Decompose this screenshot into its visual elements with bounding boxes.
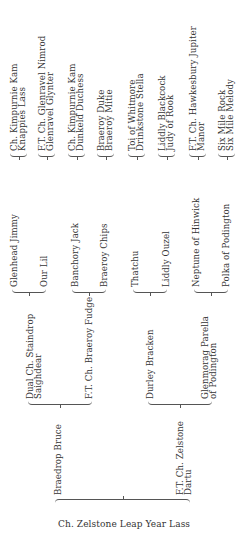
parents-brace <box>54 493 190 499</box>
sire-name: Braedrop Bruce <box>54 424 62 495</box>
great-grandparent: Polka of Podington <box>222 204 230 287</box>
ggp-brace <box>10 150 27 157</box>
great-grandparent: Neptune of Hinwick <box>192 198 200 287</box>
ggp-brace <box>97 150 114 157</box>
dam-name: F.T. Ch. Zelstone Dartu <box>176 421 192 495</box>
gp3-brace <box>133 286 167 293</box>
root-label: Ch. Zelstone Leap Year Lass <box>58 519 190 529</box>
ggp-brace <box>158 150 175 157</box>
gp4-brace <box>194 286 228 293</box>
great-great-grandparent-pair: Ch. Kimpurnie KamKnappies Lass <box>10 63 26 151</box>
great-grandparent: Glenhead Jimmy <box>10 214 18 287</box>
great-great-grandparent-pair: F.T. Ch. Glenravel NimrodGlenravel Glynt… <box>38 36 54 151</box>
gp1-brace <box>12 286 46 293</box>
great-great-grandparent-pair: Liddly BlackcockJudy of Rook <box>158 75 174 151</box>
great-great-grandparent-pair: Braeroy DukeBraeroy Mitie <box>97 89 113 151</box>
ggp-brace <box>38 150 55 157</box>
great-grandparent: Braeroy Chips <box>100 223 108 287</box>
ggp-brace <box>189 150 206 157</box>
root-dog-name: Ch. Zelstone Leap Year Lass <box>58 519 198 529</box>
great-great-grandparent-pair: F.T. Ch. Hawkesbury JupiterManor <box>189 26 205 151</box>
great-great-grandparent-pair: Six Mile RockSix Mile Melody <box>218 79 234 151</box>
great-grandparent: Our Lil <box>40 256 48 287</box>
grandparent-4: Glenmorag Parella of Podington <box>201 316 217 399</box>
great-great-grandparent-pair: Toi of WhitmoreDrinkstone Stella <box>128 73 144 151</box>
great-grandparent: Thatchu <box>131 251 139 287</box>
gp2-brace <box>72 286 106 293</box>
ggp-brace <box>218 150 235 157</box>
great-grandparent: Banchory Jack <box>71 223 79 287</box>
grandparent-1: Dual Ch. Staindrop Saighdear <box>26 314 42 399</box>
sire-brace <box>28 398 92 405</box>
great-grandparent: Liddly Ouzel <box>162 231 170 287</box>
great-great-grandparent-pair: Ch. Kimpurnie KamDunkeld Duchess <box>68 63 84 151</box>
root-brace <box>55 499 190 505</box>
ggp-brace <box>128 150 145 157</box>
ggp-brace <box>68 150 85 157</box>
grandparent-2: F.T. Ch. Braeroy Fudge <box>85 297 93 399</box>
pedigree-page: Ch. Zelstone Leap Year Lass Braedrop Bru… <box>0 0 249 543</box>
grandparent-3: Durley Bracken <box>146 329 154 399</box>
dam-brace <box>148 398 212 405</box>
